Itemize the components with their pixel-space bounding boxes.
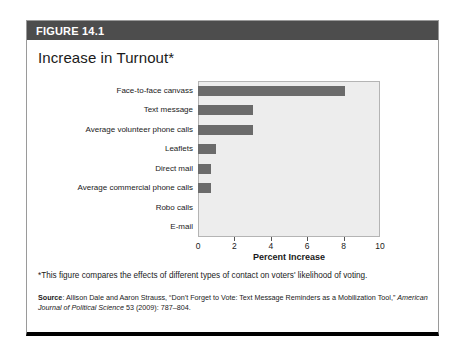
source-citation-part1: Allison Dale and Aaron Strauss, “Don’t F… [66, 293, 397, 302]
bar-row: Average volunteer phone calls [198, 120, 380, 140]
x-axis-tick-label: 0 [196, 241, 201, 251]
source-citation-part2: 53 (2009): 787–804. [124, 303, 191, 312]
figure-header: FIGURE 14.1 [27, 21, 438, 40]
figure-source: Source: Allison Dale and Aaron Strauss, … [38, 293, 430, 314]
figure-footnote: *This figure compares the effects of dif… [38, 271, 428, 281]
x-axis-tick-label: 4 [268, 241, 273, 251]
bar-category-label: Direct mail [155, 165, 198, 173]
bar-row: Direct mail [198, 159, 380, 179]
x-axis-title: Percent Increase [198, 252, 380, 262]
bar [198, 164, 211, 174]
x-axis-tick-label: 8 [341, 241, 346, 251]
bar [198, 183, 211, 193]
bar-category-label: Average volunteer phone calls [86, 126, 198, 134]
bar-category-label: Leaflets [165, 145, 198, 153]
bar-category-label: Text message [144, 106, 198, 114]
bar-row: Face-to-face canvass [198, 81, 380, 101]
figure-container: FIGURE 14.1 Increase in Turnout* Face-to… [26, 20, 439, 336]
bar-row: E-mail [198, 218, 380, 238]
bar-category-label: Face-to-face canvass [117, 87, 198, 95]
bar-chart: Face-to-face canvassText messageAverage … [27, 69, 438, 264]
source-label: Source [38, 293, 62, 302]
x-axis-tick-label: 2 [232, 241, 237, 251]
bar [198, 105, 253, 115]
bar [198, 125, 253, 135]
figure-title: Increase in Turnout* [27, 40, 438, 66]
bar [198, 86, 345, 96]
bar-row: Average commercial phone calls [198, 179, 380, 199]
bar-row: Leaflets [198, 140, 380, 160]
bar [198, 144, 216, 154]
bar-category-label: Average commercial phone calls [78, 184, 198, 192]
bar-category-label: Robo calls [156, 204, 198, 212]
x-axis-tick-label: 10 [375, 241, 384, 251]
figure-number-label: FIGURE 14.1 [36, 25, 104, 37]
bar-category-label: E-mail [170, 223, 198, 231]
bar-row: Robo calls [198, 198, 380, 218]
bar-row: Text message [198, 101, 380, 121]
x-axis-tick-label: 6 [305, 241, 310, 251]
